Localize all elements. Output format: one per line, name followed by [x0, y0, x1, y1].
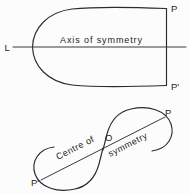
centre-of-symmetry-line: [41, 117, 165, 180]
label-L: L: [5, 42, 10, 53]
lower-figure-group: O P P' Centre of symmetry: [31, 107, 172, 190]
upper-figure-group: L P P' Axis of symmetry: [5, 3, 187, 92]
label-symmetry: symmetry: [106, 130, 149, 158]
upper-curve-bottom-branch: [33, 47, 167, 87]
label-P-prime-lower: P': [31, 177, 39, 188]
diagram-canvas: L P P' Axis of symmetry O P P' Centre of…: [0, 0, 189, 194]
label-P-upper: P: [171, 3, 177, 14]
label-axis-of-symmetry: Axis of symmetry: [60, 35, 143, 45]
label-O-origin: O: [105, 132, 112, 143]
symmetry-diagram: L P P' Axis of symmetry O P P' Centre of…: [0, 0, 189, 194]
label-P-lower: P: [165, 107, 171, 118]
label-centre-of: Centre of: [54, 134, 96, 162]
label-P-prime-upper: P': [171, 81, 179, 92]
